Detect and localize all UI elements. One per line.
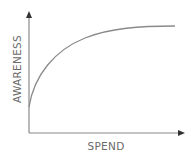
awareness-curve: [29, 26, 175, 107]
y-axis-label: AWARENESS: [11, 35, 23, 103]
chart-canvas: [0, 0, 194, 161]
awareness-vs-spend-chart: AWARENESS SPEND: [0, 0, 194, 161]
x-axis-label: SPEND: [87, 140, 124, 152]
y-axis-arrow-icon: [26, 11, 32, 18]
x-axis-arrow-icon: [178, 130, 185, 136]
